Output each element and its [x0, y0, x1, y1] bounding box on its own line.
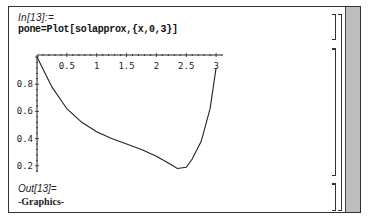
svg-text:0.6: 0.6	[17, 106, 33, 116]
x-axis-tick-labels: 0.511.522.53	[59, 61, 219, 71]
svg-text:0.8: 0.8	[17, 79, 33, 89]
plot-graphic: 0.511.522.53 0.20.40.60.8	[0, 0, 370, 220]
svg-text:2: 2	[154, 61, 159, 71]
svg-text:2.5: 2.5	[178, 61, 194, 71]
y-axis-tick-labels: 0.20.40.60.8	[17, 79, 33, 171]
svg-text:0.4: 0.4	[17, 134, 33, 144]
svg-text:0.5: 0.5	[59, 61, 75, 71]
svg-text:1: 1	[94, 61, 99, 71]
plot-curve	[37, 57, 216, 169]
svg-text:1.5: 1.5	[118, 61, 134, 71]
svg-text:0.2: 0.2	[17, 161, 33, 171]
